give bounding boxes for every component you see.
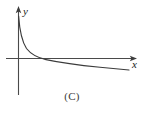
curve-path [19,16,129,70]
x-axis-label: x [131,58,137,70]
figure-caption: (C) [0,90,144,102]
figure-panel: y x (C) [0,0,144,113]
y-axis-label: y [22,5,28,17]
